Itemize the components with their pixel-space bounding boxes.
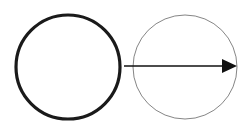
diagram-canvas bbox=[0, 0, 248, 127]
